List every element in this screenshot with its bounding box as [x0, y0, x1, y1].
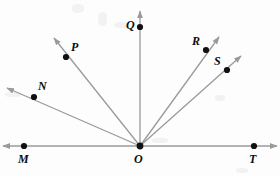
ray-or	[140, 37, 219, 146]
label-q: Q	[126, 19, 135, 31]
label-m: M	[18, 153, 29, 165]
label-o: O	[134, 153, 143, 165]
label-s: S	[214, 55, 221, 67]
point-n	[31, 94, 37, 100]
point-s	[224, 67, 230, 73]
point-r	[203, 47, 209, 53]
point-t	[251, 143, 257, 149]
points-group	[21, 24, 257, 150]
label-p: P	[71, 41, 78, 53]
ray-on	[7, 88, 140, 146]
point-o	[137, 143, 144, 150]
label-n: N	[38, 80, 47, 92]
point-p	[63, 54, 69, 60]
point-m	[21, 143, 27, 149]
point-q	[137, 24, 143, 30]
label-r: R	[192, 35, 200, 47]
geometry-figure: M N P Q R S T O	[0, 0, 280, 176]
label-t: T	[249, 153, 256, 165]
